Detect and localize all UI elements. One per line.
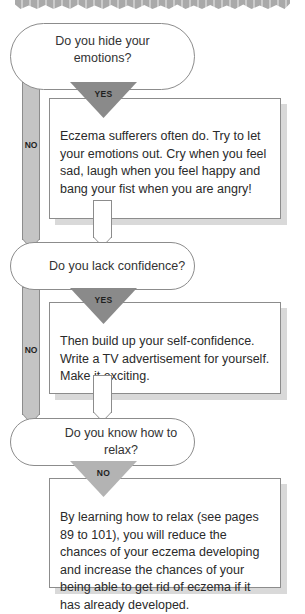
no-label-2: NO xyxy=(22,345,40,355)
connector-2 xyxy=(93,375,112,413)
no-path-bar-1 xyxy=(22,82,40,240)
question-1: Do you hide your emotions? xyxy=(10,23,195,90)
answer-3-text: By learning how to relax (see pages 89 t… xyxy=(60,509,270,614)
question-3: Do you know how to relax? xyxy=(10,418,195,466)
torn-paper-edge xyxy=(15,0,290,9)
answer-box-3: By learning how to relax (see pages 89 t… xyxy=(49,478,281,588)
question-2-text: Do you lack confidence? xyxy=(49,258,185,275)
no-label-1: NO xyxy=(22,140,40,150)
answer-box-2: Then build up your self-confidence. Writ… xyxy=(49,302,281,394)
question-3-text: Do you know how to relax? xyxy=(48,425,194,459)
answer-2-text: Then build up your self-confidence. Writ… xyxy=(60,333,270,386)
question-2: Do you lack confidence? xyxy=(10,242,195,290)
connector-1 xyxy=(93,200,112,238)
answer-1-text: Eczema sufferers often do. Try to let yo… xyxy=(60,128,270,198)
answer-box-1: Eczema sufferers often do. Try to let yo… xyxy=(49,98,281,219)
question-1-text: Do you hide your emotions? xyxy=(53,33,153,67)
